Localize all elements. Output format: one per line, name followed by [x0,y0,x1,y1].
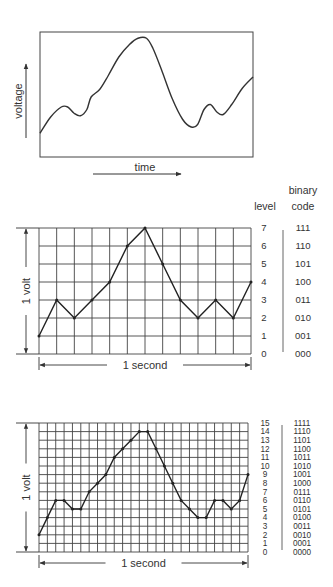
binary-code: 1010 [293,462,312,471]
level-number: 8 [263,479,268,488]
binary-code: 0101 [293,505,312,514]
binary-code: 111 [296,222,310,233]
binary-code-header-line1: binary [289,184,318,196]
three-bit-grid: 000010012010301141005101611071111 volt1 … [16,222,311,371]
sample-point [247,473,250,476]
sample-point [250,281,253,284]
sample-point [91,299,94,302]
analog-signal-panel: voltage time [12,32,253,174]
sample-point [38,533,41,536]
one-second-label: 1 second [123,359,168,371]
level-number: 6 [261,240,266,251]
quantization-diagram: voltage time binary level code 000010012… [0,0,333,587]
sample-point [129,439,132,442]
binary-code: 1111 [294,419,311,428]
level-number: 1 [263,539,268,548]
sample-point [221,499,224,502]
sample-point [146,430,149,433]
level-number: 14 [260,427,270,436]
level-number: 13 [260,436,270,445]
binary-code: 0110 [293,496,311,505]
binary-code: 1100 [293,445,311,454]
sample-point [96,482,99,485]
binary-code: 001 [295,330,311,341]
binary-code: 010 [295,312,311,323]
binary-code: 0001 [293,539,312,548]
binary-code: 1110 [294,427,311,436]
sample-point [155,447,158,450]
binary-code: 100 [295,276,311,287]
sample-point [171,482,174,485]
level-header: level [254,200,276,212]
sample-point [54,499,57,502]
level-number: 5 [263,505,268,514]
binary-code: 000 [295,348,311,359]
sample-point [238,499,241,502]
one-volt-label: 1 volt [20,474,32,500]
sample-point [79,508,82,511]
level-number: 3 [261,294,266,305]
level-number: 11 [261,453,270,462]
level-number: 0 [261,348,266,359]
sample-point [161,263,164,266]
level-number: 9 [263,470,268,479]
sample-point [88,490,91,493]
sample-point [180,499,183,502]
level-number: 3 [263,522,268,531]
binary-code: 0100 [293,513,312,522]
voltage-axis-label: voltage [12,83,24,118]
level-number: 1 [261,330,266,341]
sample-point [144,227,147,230]
sample-point [179,299,182,302]
binary-code: 110 [295,240,310,251]
four-bit-grid: 0000010001200103001140100501016011070111… [16,419,312,569]
level-number: 12 [260,445,270,454]
sample-point [138,430,141,433]
level-number: 4 [263,513,268,522]
sample-point [126,245,129,248]
binary-code: 011 [295,294,310,305]
binary-code: 0011 [293,522,311,531]
level-number: 5 [261,258,266,269]
one-second-label: 1 second [121,557,166,569]
sample-point [63,499,66,502]
three-bit-quantization-panel: binary level code 0000100120103011410051… [16,184,318,371]
level-number: 15 [260,419,270,428]
binary-code: 1101 [293,436,311,445]
sample-point [121,447,124,450]
sample-point [163,465,166,468]
binary-code: 1000 [293,479,312,488]
level-number: 6 [263,496,268,505]
level-number: 7 [261,222,266,233]
binary-code: 101 [295,258,311,269]
sample-point [188,508,191,511]
sample-point [104,473,107,476]
sample-point [38,335,41,338]
sample-point [232,317,235,320]
sample-point [71,508,74,511]
level-number: 10 [260,462,270,471]
level-number: 7 [263,488,268,497]
sample-point [55,299,58,302]
binary-code: 1001 [293,470,312,479]
binary-code: 0000 [293,548,312,557]
one-volt-label: 1 volt [20,278,32,304]
sample-point [197,317,200,320]
sample-point [73,317,76,320]
analog-plot-frame [40,32,253,157]
binary-code: 0111 [294,488,311,497]
binary-code: 1011 [293,453,311,462]
sample-point [108,281,111,284]
sample-point [230,508,233,511]
level-number: 4 [261,276,266,287]
sample-point [46,516,49,519]
sample-point [213,499,216,502]
level-number: 2 [261,312,266,323]
binary-code-header-line2: code [292,200,315,212]
four-bit-quantization-panel: 0000010001200103001140100501016011070111… [16,419,312,569]
sample-point [196,516,199,519]
binary-code: 0010 [293,531,312,540]
sample-point [113,456,116,459]
time-axis-label: time [135,161,156,173]
level-number: 2 [263,531,268,540]
